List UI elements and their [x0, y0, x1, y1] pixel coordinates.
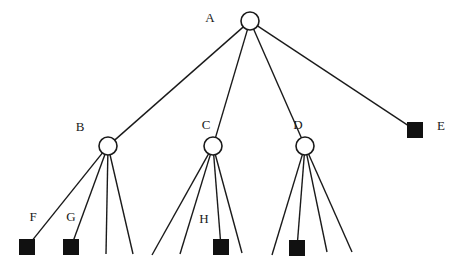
tree-edge-A-E [257, 26, 409, 126]
tree-node-label-F: F [29, 209, 36, 224]
tree-node-label-A: A [205, 10, 215, 25]
tree-node-square-H[interactable] [214, 240, 229, 255]
tree-edge-B-b3 [106, 154, 108, 254]
labels-layer: ABCDEFGH [29, 10, 445, 226]
tree-edge-B-G [74, 154, 105, 240]
tree-diagram-svg: ABCDEFGH [0, 0, 468, 271]
tree-node-label-E: E [437, 118, 445, 133]
tree-node-square-E[interactable] [408, 123, 423, 138]
tree-edge-D-d4 [308, 154, 352, 252]
tree-node-label-G: G [66, 209, 75, 224]
tree-node-circle-D[interactable] [296, 137, 314, 155]
tree-edge-D-d3 [307, 154, 327, 252]
tree-edge-B-F [32, 153, 103, 242]
tree-node-circle-B[interactable] [99, 137, 117, 155]
tree-edge-B-b4 [110, 154, 133, 254]
tree-node-label-H: H [199, 211, 208, 226]
tree-node-label-D: D [293, 117, 302, 132]
tree-node-label-B: B [76, 119, 85, 134]
tree-edge-C-c2 [180, 154, 211, 254]
tree-diagram-canvas: ABCDEFGH [0, 0, 468, 271]
tree-edge-A-B [114, 27, 243, 141]
tree-node-label-C: C [202, 117, 211, 132]
tree-node-circle-A[interactable] [241, 12, 259, 30]
tree-edge-A-C [215, 29, 247, 138]
tree-edge-C-c1 [152, 153, 209, 255]
tree-node-square-I[interactable] [290, 241, 305, 256]
tree-node-square-F[interactable] [20, 240, 35, 255]
tree-node-square-G[interactable] [64, 240, 79, 255]
tree-edge-C-c4 [215, 154, 242, 253]
tree-node-circle-C[interactable] [204, 137, 222, 155]
